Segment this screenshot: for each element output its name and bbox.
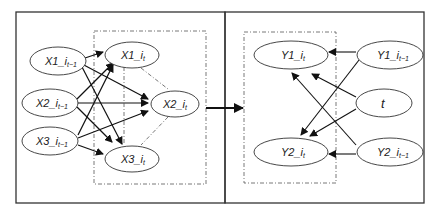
node-y1-t: Y1_it: [254, 41, 328, 69]
diagram-canvas: X1_it−1 X2_it−1 X3_it−1 X1_it X2_it X3_i…: [0, 0, 438, 216]
svg-text:X3_it: X3_it: [120, 153, 146, 166]
node-y1-prev: Y1_it−1: [357, 41, 423, 69]
node-x2-t: X2_it: [151, 91, 199, 117]
svg-text:Y2_it: Y2_it: [281, 146, 306, 159]
node-x3-prev: X3_it−1: [22, 127, 78, 155]
node-x2-prev: X2_it−1: [22, 89, 78, 117]
node-x1-prev: X1_it−1: [30, 47, 86, 75]
svg-text:Y1_it: Y1_it: [281, 49, 306, 62]
node-t: t: [356, 89, 412, 117]
svg-text:X1_it: X1_it: [120, 49, 146, 62]
node-x3-t: X3_it: [105, 146, 159, 172]
svg-text:X2_it: X2_it: [162, 98, 188, 111]
node-y2-t: Y2_it: [254, 138, 328, 166]
node-x1-t: X1_it: [105, 42, 159, 68]
node-y2-prev: Y2_it−1: [357, 138, 423, 166]
